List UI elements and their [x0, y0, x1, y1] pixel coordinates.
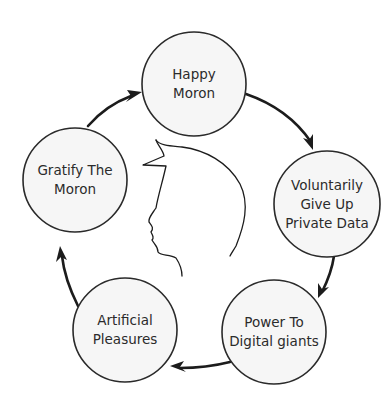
node-label: Digital giants — [229, 333, 319, 349]
node-power-to-digital-giants: Power To Digital giants — [222, 280, 326, 384]
head-profile-icon — [143, 140, 245, 276]
node-circle — [73, 278, 177, 382]
node-gratify-the-moron: Gratify The Moron — [23, 128, 127, 232]
node-label: Private Data — [285, 215, 369, 231]
node-label: Artificial — [97, 312, 153, 328]
node-label: Happy — [172, 66, 216, 82]
arrow-happy-to-voluntarily — [246, 94, 311, 142]
node-label: Power To — [244, 314, 303, 330]
node-happy-moron: Happy Moron — [142, 32, 246, 136]
node-voluntarily-give-up-private-data: Voluntarily Give Up Private Data — [274, 151, 380, 257]
arrow-voluntarily-to-power — [322, 256, 334, 292]
node-label: Voluntarily — [291, 177, 363, 193]
node-circle — [222, 280, 326, 384]
arrow-artificial-to-gratify — [62, 256, 78, 306]
node-label: Moron — [173, 85, 215, 101]
arrow-power-to-artificial — [180, 362, 230, 368]
node-circle — [23, 128, 127, 232]
node-label: Gratify The — [37, 162, 112, 178]
arrowhead-icon — [170, 361, 186, 372]
arrowhead-icon — [318, 283, 329, 298]
arrow-gratify-to-happy — [88, 96, 131, 126]
cycle-diagram: Happy Moron Voluntarily Give Up Private … — [0, 0, 390, 412]
node-artificial-pleasures: Artificial Pleasures — [73, 278, 177, 382]
node-circle — [142, 32, 246, 136]
node-label: Give Up — [300, 196, 353, 212]
node-label: Pleasures — [93, 331, 158, 347]
node-label: Moron — [54, 181, 96, 197]
